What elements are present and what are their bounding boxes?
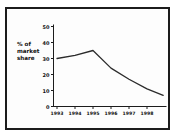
x-tick-label: 1998: [141, 111, 154, 116]
y-tick-label: 0: [46, 104, 50, 110]
y-axis-title-line: % of: [17, 41, 31, 47]
screenshot-root: 01020304050199319941995199619971998% ofm…: [0, 0, 177, 137]
x-tick-label: 1997: [123, 111, 136, 116]
x-tick-label: 1995: [87, 111, 100, 116]
market-share-series-line: [57, 51, 163, 96]
y-tick-label: 10: [43, 88, 50, 94]
x-tick-label: 1993: [51, 111, 64, 116]
y-tick-label: 50: [43, 24, 50, 30]
y-axis-title-line: market: [17, 48, 40, 54]
y-tick-label: 40: [43, 40, 50, 46]
market-share-line-chart: 01020304050199319941995199619971998% ofm…: [0, 0, 177, 137]
x-tick-label: 1996: [105, 111, 118, 116]
y-tick-label: 30: [43, 56, 50, 62]
x-tick-label: 1994: [69, 111, 82, 116]
y-tick-label: 20: [43, 72, 50, 78]
y-axis-title-line: share: [17, 55, 35, 61]
